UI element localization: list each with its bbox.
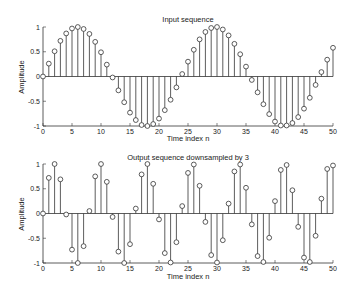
stem-marker	[81, 27, 86, 32]
y-tick-label: -0.5	[28, 98, 40, 105]
x-tick-label: 30	[213, 128, 221, 135]
stem-marker	[232, 41, 237, 46]
axis-ticks: 05101520253035404550-1-0.500.51	[28, 24, 337, 136]
stem-marker	[133, 118, 138, 123]
x-tick-label: 45	[300, 128, 308, 135]
stem-marker	[64, 212, 69, 217]
stem-marker	[99, 162, 104, 167]
axis-ticks: 05101520253035404550-1-0.500.51	[28, 161, 337, 273]
stem-marker	[151, 122, 156, 127]
stem-marker	[104, 62, 109, 67]
stem-marker	[226, 33, 231, 38]
stem-marker	[255, 254, 260, 259]
stem-marker	[58, 177, 63, 182]
stem-series	[41, 162, 336, 266]
x-tick-label: 35	[242, 128, 250, 135]
stem-marker	[81, 244, 86, 249]
stem-marker	[220, 27, 225, 32]
stem-marker	[296, 224, 301, 229]
y-axis-label: Amplitude	[17, 197, 26, 230]
stem-marker	[238, 162, 243, 167]
stem-marker	[75, 25, 80, 30]
stem-marker	[162, 251, 167, 256]
stem-marker	[157, 217, 162, 222]
stem-marker	[128, 242, 133, 247]
stem-marker	[87, 32, 92, 37]
stem-marker	[93, 174, 98, 179]
stem-marker	[273, 119, 278, 124]
stem-marker	[168, 97, 173, 102]
stem-marker	[313, 83, 318, 88]
stem-marker	[104, 179, 109, 184]
stem-marker	[261, 260, 266, 265]
stem-marker	[145, 162, 150, 167]
stem-marker	[139, 123, 144, 128]
stem-marker	[325, 167, 330, 172]
stem-marker	[220, 238, 225, 243]
stem-marker	[267, 235, 272, 240]
stem-marker	[267, 112, 272, 117]
stem-marker	[122, 100, 127, 105]
stem-marker	[290, 121, 295, 126]
stem-marker	[133, 206, 138, 211]
stem-marker	[249, 78, 254, 83]
stem-marker	[58, 38, 63, 43]
output-sequence-plot: Output sequence downsampled by 3 Time in…	[17, 153, 337, 281]
x-tick-label: 50	[329, 265, 337, 272]
x-tick-label: 40	[271, 265, 279, 272]
stem-marker	[278, 168, 283, 173]
y-tick-label: 0.5	[30, 48, 40, 55]
figure: Input sequence Time index n Amplitude 05…	[0, 0, 354, 295]
x-axis-label: Time index n	[167, 272, 210, 281]
stem-marker	[180, 72, 185, 77]
stem-marker	[203, 220, 208, 225]
stem-marker	[99, 50, 104, 55]
y-tick-label: 0.5	[30, 185, 40, 192]
y-tick-label: 1	[36, 24, 40, 31]
stem-marker	[180, 204, 185, 209]
stem-marker	[46, 61, 51, 66]
x-tick-label: 5	[70, 128, 74, 135]
stem-marker	[331, 45, 336, 50]
stem-marker	[319, 196, 324, 201]
stem-plots: Input sequence Time index n Amplitude 05…	[0, 0, 354, 295]
stem-marker	[249, 222, 254, 227]
stem-marker	[64, 31, 69, 36]
stem-marker	[157, 116, 162, 121]
input-sequence-plot: Input sequence Time index n Amplitude 05…	[17, 15, 337, 143]
stem-marker	[52, 49, 57, 54]
x-tick-label: 5	[70, 265, 74, 272]
stem-marker	[319, 70, 324, 75]
stem-marker	[116, 88, 121, 93]
y-axis-label: Amplitude	[17, 60, 26, 93]
stem-marker	[197, 37, 202, 42]
x-tick-label: 20	[155, 265, 163, 272]
stem-marker	[215, 25, 220, 30]
stem-marker	[93, 39, 98, 44]
stem-marker	[302, 106, 307, 111]
x-tick-label: 10	[97, 128, 105, 135]
y-tick-label: 1	[36, 161, 40, 168]
stem-marker	[87, 209, 92, 214]
stem-marker	[278, 123, 283, 128]
x-tick-label: 35	[242, 265, 250, 272]
stem-marker	[215, 260, 220, 265]
stem-marker	[313, 233, 318, 238]
plot-title: Input sequence	[162, 15, 213, 24]
x-tick-label: 15	[126, 128, 134, 135]
stem-marker	[261, 102, 266, 107]
stem-marker	[145, 124, 150, 129]
stem-marker	[209, 26, 214, 31]
stem-marker	[168, 260, 173, 265]
stem-marker	[128, 110, 133, 115]
stem-marker	[110, 215, 115, 220]
stem-marker	[46, 175, 51, 180]
stem-marker	[162, 108, 167, 113]
stem-marker	[325, 57, 330, 62]
stem-marker	[41, 74, 46, 79]
stem-marker	[307, 95, 312, 100]
stem-marker	[296, 115, 301, 120]
stem-marker	[203, 30, 208, 35]
stem-marker	[331, 163, 336, 168]
stem-marker	[151, 181, 156, 186]
